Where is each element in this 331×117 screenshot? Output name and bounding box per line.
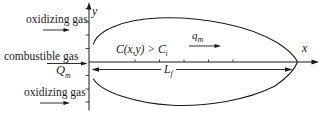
- x-axis: [89, 60, 319, 65]
- left-arrowhead-icon: [92, 67, 100, 72]
- oxidizing-gas-top-label: oxidizing gas: [26, 13, 88, 26]
- mass-flow-symbol: Q: [56, 63, 65, 77]
- combustible-gas-label: combustible gas: [4, 50, 78, 63]
- mass-flow-label: Qm: [56, 64, 71, 80]
- flame-length-label: Lf: [161, 63, 176, 79]
- flame-length-subscript: f: [170, 69, 172, 78]
- concentration-subscript: i: [166, 49, 168, 58]
- concentration-expression: C(x,y) > C: [116, 43, 166, 55]
- x-axis-label: x: [302, 42, 307, 55]
- flame-diagram: oxidizing gas combustible gas Qm oxidizi…: [0, 0, 331, 117]
- mass-flux-subscript: m: [198, 35, 204, 44]
- mass-flow-subscript: m: [65, 71, 71, 80]
- oxidizing-top-arrow: [43, 28, 70, 32]
- y-axis-label: y: [92, 5, 97, 18]
- mass-flux-label: qm: [192, 29, 203, 45]
- flame-length-arrow: [92, 67, 293, 72]
- concentration-label: C(x,y) > Ci: [116, 43, 168, 59]
- oxidizing-gas-bottom-label: oxidizing gas: [24, 86, 86, 99]
- oxidizing-bottom-arrow: [40, 101, 70, 105]
- x-axis-arrow-icon: [312, 60, 320, 65]
